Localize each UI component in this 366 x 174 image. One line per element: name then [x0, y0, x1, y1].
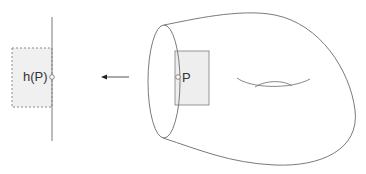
half-plane-chart: h(P) — [12, 17, 54, 141]
arrow-left-icon — [101, 75, 129, 80]
label-p: P — [182, 70, 191, 85]
point-p-marker — [176, 75, 181, 80]
diagram-canvas: h(P) P — [0, 0, 366, 174]
point-hp-marker — [50, 75, 55, 80]
handle-upper — [237, 78, 310, 86]
diagram-svg: h(P) P — [0, 0, 366, 174]
surface: P — [148, 13, 355, 165]
label-hp: h(P) — [23, 69, 48, 84]
